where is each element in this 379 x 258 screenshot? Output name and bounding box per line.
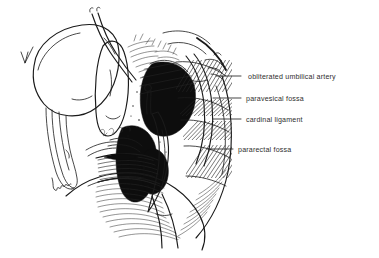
pelvic-sidewall-hatching (178, 170, 226, 236)
label-paravesical-fossa: paravesical fossa (246, 95, 304, 103)
label-obliterated-umbilical-artery: obliterated umbilical artery (248, 73, 336, 81)
label-group: obliterated umbilical artery paravesical… (238, 73, 336, 154)
anatomical-figure: obliterated umbilical artery paravesical… (0, 0, 379, 258)
label-cardinal-ligament: cardinal ligament (246, 116, 303, 124)
label-pararectal-fossa: pararectal fossa (238, 146, 291, 154)
peritoneal-fold-band-c (178, 119, 248, 142)
orientation-tick-mark (21, 47, 33, 63)
cardinal-ligament-dark-mass (140, 58, 200, 136)
bladder-outline (33, 25, 119, 116)
urethra-tubes (46, 108, 77, 190)
